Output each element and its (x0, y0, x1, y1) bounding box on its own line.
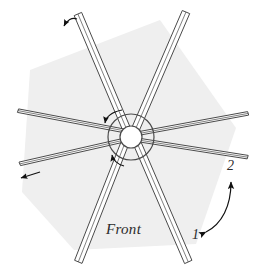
arrow-spoke-tip-upper-left (64, 18, 77, 26)
angle-label-two: 2 (227, 159, 234, 173)
front-label: Front (106, 222, 141, 237)
angle-label-one: 1 (192, 228, 199, 242)
figure-canvas: Front 1 2 (0, 0, 264, 273)
